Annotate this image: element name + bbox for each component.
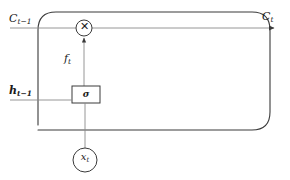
- hidden-state-in-base: h: [9, 84, 17, 97]
- cell-state-in-subscript: t−1: [17, 17, 31, 26]
- forget-gate-subscript: t: [68, 57, 71, 66]
- lstm-forget-gate-figure: ✕ Ct−1 Ct ht−1 ft σ xt: [0, 0, 290, 180]
- cell-state-out-subscript: t: [270, 15, 273, 24]
- sigmoid-glyph: σ: [72, 86, 100, 103]
- cell-body-outline: [38, 12, 270, 130]
- input-label: xt: [73, 152, 97, 162]
- hidden-state-in-subscript: t−1: [17, 89, 32, 98]
- forget-gate-label: ft: [64, 53, 71, 64]
- cell-state-out-label: Ct: [262, 11, 273, 22]
- diagram-canvas: [0, 0, 290, 180]
- hidden-state-in-label: ht−1: [9, 85, 32, 96]
- cell-state-in-label: Ct−1: [9, 13, 31, 24]
- multiply-glyph: ✕: [76, 21, 92, 32]
- input-subscript: t: [86, 156, 89, 164]
